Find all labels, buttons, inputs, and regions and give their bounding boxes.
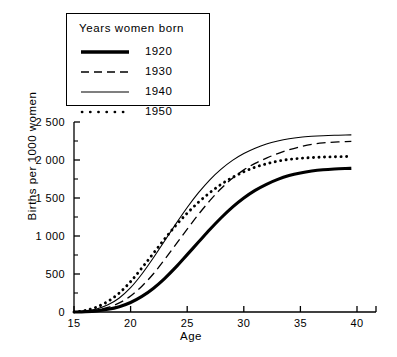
y-tick-label-2500: 2 500 <box>35 116 65 128</box>
legend-entry-1920: 1920 <box>79 44 203 60</box>
legend-entry-1940: 1940 <box>79 84 203 100</box>
series-line-1920 <box>74 168 351 312</box>
series-line-1940 <box>74 135 351 312</box>
x-tick-label-40: 40 <box>350 317 363 329</box>
y-axis-title: Births per 1000 women <box>26 76 38 236</box>
y-tick-label-500: 500 <box>45 268 65 280</box>
legend-swatch-dotted <box>79 104 137 120</box>
legend-swatch-dashed <box>79 64 137 80</box>
legend-label-1920: 1920 <box>145 45 172 57</box>
y-tick-label-1000: 1 000 <box>35 230 65 242</box>
y-tick-label-0: 0 <box>58 306 65 318</box>
legend-label-1940: 1940 <box>145 85 172 97</box>
y-tick-label-2000: 2 000 <box>35 154 65 166</box>
x-tick-label-25: 25 <box>181 317 194 329</box>
x-tick-label-20: 20 <box>124 317 137 329</box>
x-axis-title: Age <box>180 330 202 342</box>
legend-swatch-solid-thick <box>79 44 137 60</box>
legend-title: Years women born <box>79 22 184 34</box>
legend-entry-1930: 1930 <box>79 64 203 80</box>
legend-swatch-solid-thin <box>79 84 137 100</box>
chart-figure: 05001 0001 5002 0002 500152025303540 Yea… <box>0 0 397 357</box>
chart-legend: Years women born 1920 1930 1940 1950 <box>66 13 210 106</box>
legend-label-1950: 1950 <box>145 105 172 117</box>
x-tick-label-30: 30 <box>237 317 250 329</box>
x-tick-label-15: 15 <box>67 317 80 329</box>
x-tick-label-35: 35 <box>294 317 307 329</box>
legend-entry-1950: 1950 <box>79 104 203 120</box>
legend-label-1930: 1930 <box>145 65 172 77</box>
series-line-1950 <box>74 157 351 313</box>
y-tick-label-1500: 1 500 <box>35 192 65 204</box>
